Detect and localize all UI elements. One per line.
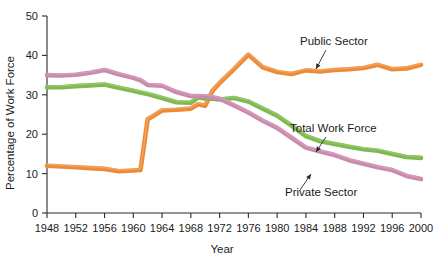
x-tick-label: 1976 (236, 222, 260, 234)
x-tick-label: 1960 (121, 222, 145, 234)
x-tick-label: 1964 (150, 222, 174, 234)
x-tick-label: 1996 (380, 222, 404, 234)
data-series-group (47, 53, 421, 179)
y-tick-label: 10 (26, 168, 38, 180)
y-axis-title: Percentage of Work Force (4, 56, 16, 190)
x-tick-label: 1984 (294, 222, 318, 234)
x-tick-label: 1988 (322, 222, 346, 234)
series-annotation-label: Total Work Force (290, 122, 377, 134)
x-axis-ticks: 1948195219561960196419681972197619801984… (35, 213, 433, 234)
series-annotations: Public SectorTotal Work ForcePrivate Sec… (285, 35, 377, 198)
y-tick-label: 30 (26, 89, 38, 101)
line-chart: 01020304050 1948195219561960196419681972… (0, 0, 442, 260)
series-annotation-label: Public Sector (300, 35, 368, 47)
series-annotation-label: Private Sector (285, 186, 357, 198)
x-tick-label: 1980 (265, 222, 289, 234)
x-tick-label: 1952 (64, 222, 88, 234)
annotation-arrow-icon (306, 174, 311, 180)
y-tick-label: 40 (26, 49, 38, 61)
chart-container: 01020304050 1948195219561960196419681972… (0, 0, 442, 260)
y-axis: 01020304050 (26, 10, 47, 219)
y-tick-label: 0 (32, 207, 38, 219)
x-tick-label: 1968 (179, 222, 203, 234)
x-tick-label: 1948 (35, 222, 59, 234)
x-tick-label: 1992 (351, 222, 375, 234)
x-tick-label: 1972 (207, 222, 231, 234)
x-axis: 1948195219561960196419681972197619801984… (35, 213, 433, 234)
y-tick-label: 50 (26, 10, 38, 22)
y-axis-ticks: 01020304050 (26, 10, 47, 219)
x-tick-label: 1956 (92, 222, 116, 234)
x-tick-label: 2000 (409, 222, 433, 234)
y-tick-label: 20 (26, 128, 38, 140)
series-highlight-total-work-force (47, 83, 421, 156)
x-axis-title: Year (210, 243, 233, 255)
